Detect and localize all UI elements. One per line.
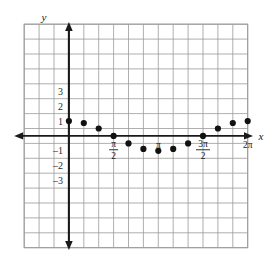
figure-background: [0, 0, 270, 268]
data-point: [96, 125, 102, 131]
y-axis-label: y: [41, 11, 47, 23]
fraction-numerator: 3π: [198, 139, 208, 149]
y-tick-label: –3: [52, 175, 63, 186]
fraction-numerator: π: [111, 139, 116, 149]
fraction-denominator: 2: [201, 151, 206, 161]
data-point: [140, 146, 146, 152]
data-point: [81, 120, 87, 126]
data-point: [125, 140, 131, 146]
fraction-denominator: 2: [111, 151, 116, 161]
data-point: [155, 148, 161, 154]
data-point: [215, 125, 221, 131]
data-point: [200, 133, 206, 139]
coordinate-plane: 321–1–2–3 π2π3π22π y x: [0, 0, 270, 268]
graph-figure: 321–1–2–3 π2π3π22π y x: [0, 0, 270, 268]
data-point: [170, 146, 176, 152]
y-tick-label: –2: [52, 160, 63, 171]
y-tick-label: 1: [58, 116, 63, 127]
x-axis-label: x: [258, 130, 264, 142]
data-point: [245, 118, 251, 124]
x-tick-text: 2π: [243, 140, 253, 150]
y-tick-label: 2: [58, 101, 63, 112]
data-point: [66, 118, 72, 124]
data-point: [185, 140, 191, 146]
data-point: [111, 133, 117, 139]
x-tick-label: 2π: [243, 140, 253, 150]
y-tick-label: 3: [58, 86, 63, 97]
data-point: [230, 120, 236, 126]
y-tick-label: –1: [52, 145, 63, 156]
